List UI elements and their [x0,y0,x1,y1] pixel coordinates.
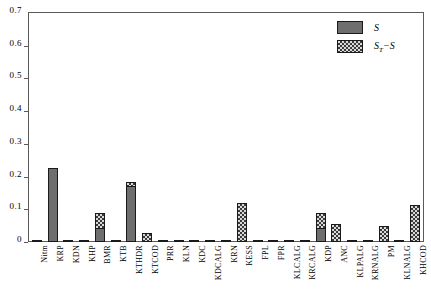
bar-segment-s [79,240,89,242]
bar-stack [379,226,389,242]
x-axis-label-kdcalg: KDCALG [214,245,223,305]
x-axis-label-kdp: KDP [324,245,333,305]
bar-segment-st-minus-s [331,224,341,242]
bar-stack [300,240,310,242]
bar-segment-s [126,186,136,242]
bar-stack [32,240,42,242]
y-axis-tick-label: 0.1 [10,202,22,211]
x-axis-label-bmr: BMR [103,245,112,305]
bar-stack [174,240,184,242]
y-axis-tick-mark [24,111,28,112]
bar-segment-s [48,168,58,242]
bar-segment-s [174,240,184,242]
y-axis-tick-label: 0.6 [10,39,22,48]
bar-segment-st-minus-s [410,205,420,242]
sobol-indices-bar-chart: 00.10.20.30.40.50.60.7 NitmKRPKDNKHPBMRK… [0,0,431,307]
bar-segment-s [300,240,310,242]
bar-segment-s [394,240,404,242]
x-axis-label-pm: PM [387,245,396,305]
bar-segment-st-minus-s [237,203,247,242]
x-axis-label-klnalg: KLNALG [403,245,412,305]
y-axis-tick-mark [24,209,28,210]
bar-segment-s [63,240,73,242]
legend-swatch-st-minus-s [337,40,363,53]
x-axis-label-nitm: Nitm [40,245,49,305]
bar-segment-s [284,240,294,242]
bar-segment-s [221,240,231,242]
x-axis-label-anc: ANC [340,245,349,305]
bar-stack [316,213,326,242]
y-axis-tick-mark [24,144,28,145]
bar-segment-s [158,240,168,242]
x-axis-label-ktb: KTB [119,245,128,305]
bar-stack [189,240,199,242]
y-axis-tick-label: 0 [17,235,22,244]
legend-label-st-minus-s: ST−S [374,40,395,54]
x-axis-label-fpl: FPL [261,245,270,305]
x-axis-label-kdc: KDC [198,245,207,305]
x-axis-label-krn: KRN [230,245,239,305]
bar-segment-st-minus-s [95,213,105,228]
x-axis-label-kess: KESS [245,245,254,305]
bar-stack [268,240,278,242]
bar-stack [79,240,89,242]
bar-stack [253,240,263,242]
bar-segment-s [205,240,215,242]
legend-item-st-minus-s: ST−S [337,39,415,54]
y-axis-tick-mark [24,242,28,243]
bar-stack [237,203,247,242]
x-axis-label-fpr: FPR [277,245,286,305]
bar-segment-s [189,240,199,242]
bar-stack [410,205,420,242]
y-axis: 00.10.20.30.40.50.60.7 [0,12,28,242]
x-axis-label-kln: KLN [182,245,191,305]
bar-segment-s [32,240,42,242]
y-axis-tick-label: 0.4 [10,104,22,113]
bar-stack [394,240,404,242]
y-axis-tick-label: 0.5 [10,71,22,80]
bar-segment-s [363,240,373,242]
y-axis-tick-label: 0.3 [10,137,22,146]
y-axis-tick-mark [24,46,28,47]
x-axis-label-kdn: KDN [72,245,81,305]
x-axis-category-labels: NitmKRPKDNKHPBMRKTBKTHDRKTCODPRRKLNKDCKD… [29,245,423,305]
x-axis-label-kthdr: KTHDR [135,245,144,305]
x-axis-label-krp: KRP [56,245,65,305]
y-axis-tick-label: 0.7 [10,6,22,15]
x-axis-label-prr: PRR [166,245,175,305]
x-axis-label-klpalg: KLPALG [356,245,365,305]
bar-stack [221,240,231,242]
bar-segment-s [95,228,105,242]
bar-stack [63,240,73,242]
y-axis-tick-label: 0.2 [10,170,22,179]
y-axis-tick-mark [24,78,28,79]
bar-segment-s [316,228,326,242]
bar-stack [48,168,58,242]
bar-segment-st-minus-s [142,233,152,242]
bar-segment-st-minus-s [316,213,326,228]
bar-segment-s [268,240,278,242]
x-axis-label-ktcod: KTCOD [151,245,160,305]
bar-stack [331,224,341,242]
x-axis-label-krnalg: KRNALG [371,245,380,305]
x-axis-label-krcalg: KRCALG [308,245,317,305]
bar-segment-s [253,240,263,242]
bar-stack [95,213,105,242]
bar-stack [363,240,373,242]
bar-segment-s [347,240,357,242]
bar-stack [158,240,168,242]
y-axis-tick-mark [24,177,28,178]
x-axis-label-khp: KHP [88,245,97,305]
bar-stack [347,240,357,242]
legend-label-s: S [374,22,379,33]
bar-stack [284,240,294,242]
x-axis-label-khcod: KHCOD [419,245,428,305]
legend-swatch-s [337,21,363,34]
bar-segment-s [111,240,121,242]
legend: S ST−S [337,20,415,58]
legend-item-s: S [337,20,415,35]
bar-stack [111,240,121,242]
bar-stack [126,182,136,242]
bar-segment-st-minus-s [379,226,389,242]
bar-stack [142,233,152,242]
